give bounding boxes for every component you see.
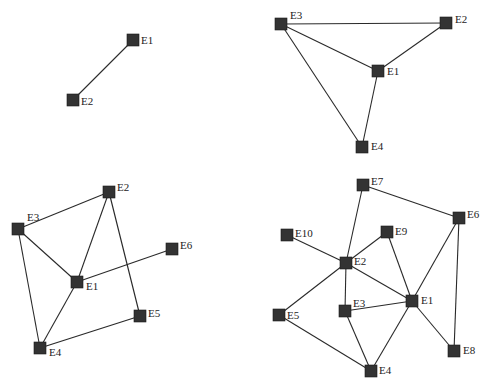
graph-3-edges [18, 192, 172, 348]
edge-e7-e6 [363, 185, 459, 218]
network-diagram-canvas: E1E2E3E2E1E4E2E3E6E1E5E4E7E6E10E9E2E1E3E… [0, 0, 484, 383]
graph-3-node-e1 [71, 276, 83, 288]
edge-e1-e4 [362, 71, 378, 147]
graph-4-label-e2: E2 [354, 255, 366, 267]
graph-3-label-e3: E3 [27, 211, 40, 223]
edge-e2-e5 [109, 192, 140, 316]
graph-3-label-e5: E5 [148, 307, 161, 319]
graph-2-node-e4 [356, 141, 368, 153]
graph-4-label-e9: E9 [395, 225, 408, 237]
graph-2-node-e2 [440, 17, 452, 29]
graph-3-label-e6: E6 [180, 239, 193, 251]
graph-4-label-e6: E6 [467, 208, 480, 220]
edge-e3-e4 [345, 311, 371, 371]
graph-3-node-e2 [103, 186, 115, 198]
graph-4-edges [279, 185, 459, 371]
edge-e9-e1 [387, 232, 412, 301]
graph-4-label-e8: E8 [463, 344, 476, 356]
graph-3-node-e6 [166, 243, 178, 255]
graph-3-node-e3 [12, 223, 24, 235]
graph-1-node-e1 [127, 34, 139, 46]
edge-e3-e1 [281, 24, 378, 71]
edge-e7-e2 [346, 185, 363, 263]
graph-3-label-e1: E1 [86, 280, 98, 292]
graph-3-node-e4 [34, 342, 46, 354]
edge-e2-e5 [279, 263, 346, 315]
edge-e6-e8 [454, 218, 459, 351]
graph-3-label-e2: E2 [117, 181, 129, 193]
graph-2-label-e2: E2 [455, 13, 467, 25]
graph-1-label-e2: E2 [81, 95, 93, 107]
graph-1-node-e2 [67, 94, 79, 106]
graph-4-label-e4: E4 [379, 364, 392, 376]
edge-e5-e4 [279, 315, 371, 371]
edge-e10-e2 [287, 235, 346, 263]
edge-e2-e3 [345, 263, 346, 311]
graph-4-node-e5 [273, 309, 285, 321]
graph-1-label-e1: E1 [141, 34, 153, 46]
graph-2-label-e4: E4 [371, 140, 384, 152]
graph-4-node-e9 [381, 226, 393, 238]
graph-2-label-e3: E3 [290, 9, 303, 21]
graph-4-label-e10: E10 [295, 227, 313, 239]
graph-3-node-e5 [134, 310, 146, 322]
edge-e2-e1 [77, 192, 109, 282]
edge-e1-e8 [412, 301, 454, 351]
graph-2-label-e1: E1 [387, 65, 399, 77]
graph-4-node-e6 [453, 212, 465, 224]
edge-e2-e1 [346, 263, 412, 301]
graph-2-edges [281, 23, 446, 147]
graph-4-node-e10 [281, 229, 293, 241]
graph-4-node-e3 [339, 305, 351, 317]
labels-layer: E1E2E3E2E1E4E2E3E6E1E5E4E7E6E10E9E2E1E3E… [27, 9, 480, 376]
graph-4-node-e1 [406, 295, 418, 307]
edge-e1-e2 [73, 40, 133, 100]
graph-4-label-e5: E5 [287, 309, 300, 321]
graph-3-label-e4: E4 [49, 346, 62, 358]
edge-e1-e4 [371, 301, 412, 371]
graph-4-label-e7: E7 [371, 175, 384, 187]
graph-4-label-e3: E3 [353, 297, 366, 309]
graph-4-label-e1: E1 [421, 294, 433, 306]
graph-4-node-e2 [340, 257, 352, 269]
edge-e3-e4 [281, 24, 362, 147]
edge-e3-e2 [281, 23, 446, 24]
edge-e2-e1 [378, 23, 446, 71]
graph-4-node-e7 [357, 179, 369, 191]
edge-e3-e4 [18, 229, 40, 348]
graph-4-node-e8 [448, 345, 460, 357]
graph-4-node-e4 [365, 365, 377, 377]
edge-e1-e6 [412, 218, 459, 301]
graph-2-node-e3 [275, 18, 287, 30]
graph-1-edges [73, 40, 133, 100]
graph-2-node-e1 [372, 65, 384, 77]
